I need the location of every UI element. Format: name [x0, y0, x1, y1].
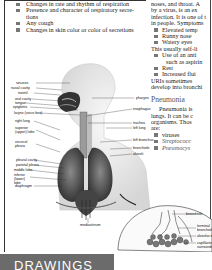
square-bullet-icon	[16, 22, 20, 26]
banner-title: DRAWINGS	[14, 258, 93, 270]
label-inset-bronchiole: bronchiole	[186, 212, 203, 216]
label-terminal-bronchiole: terminal bronchiole	[197, 224, 212, 232]
square-bullet-icon	[16, 28, 20, 32]
square-bullet-icon	[16, 3, 20, 7]
label-alveolar-duct: alveolar d	[197, 234, 212, 238]
treatment-item: Use of an anti	[151, 52, 211, 58]
square-bullet-icon	[154, 28, 158, 32]
label-visceral-pleura: visceral pleura	[15, 140, 35, 148]
symptom-item: Watery eyes	[151, 39, 211, 45]
list-item: Changes in skin color or color of secret…	[14, 27, 146, 33]
label-capillaries: capillaries surrounding	[197, 241, 212, 249]
label-parietal-pleura: parietal pleura	[16, 163, 39, 167]
observation-list: Changes in rate and rhythm of respiratio…	[14, 1, 146, 33]
square-bullet-icon	[154, 35, 158, 39]
label-pharynx: pharynx	[136, 96, 149, 100]
label-right-lung: right lung	[15, 119, 30, 123]
respiratory-system-diagram: sinuses nasal cavity nostril oral cavity…	[0, 60, 212, 252]
label-middle-lobe: middle lobe	[14, 168, 32, 172]
label-diaphragm: diaphragm	[15, 184, 32, 188]
label-superior-lobe: superior (upper) lobe	[15, 126, 35, 134]
label-esophagus: esophagus	[133, 107, 151, 111]
label-pleural-cavity: pleural cavity	[16, 158, 37, 162]
square-bullet-icon	[16, 9, 20, 13]
label-mediastinum: mediastinum	[80, 223, 100, 227]
label-epiglottis: epiglottis	[13, 105, 27, 109]
anatomy-illustration	[0, 60, 212, 252]
label-nostril: nostril	[18, 91, 28, 95]
label-left-bronchus: left bronchus	[133, 138, 154, 142]
label-trachea: trachea	[133, 121, 145, 125]
label-bronchiole: bronchiole	[133, 146, 150, 150]
label-larynx: larynx (voice box)	[14, 111, 42, 115]
label-left-lung: left lung	[133, 126, 146, 130]
label-nasal-cavity: nasal cavity	[11, 86, 30, 90]
square-bullet-icon	[154, 41, 158, 45]
label-sinuses: sinuses	[16, 81, 28, 85]
square-bullet-icon	[154, 54, 158, 58]
label-alveoli: alveoli	[133, 152, 143, 156]
